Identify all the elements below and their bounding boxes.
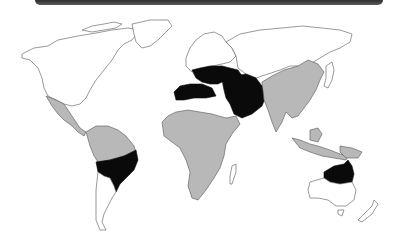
- region-greenland: [132, 20, 172, 48]
- region-sub-saharan-africa: [162, 110, 240, 200]
- region-tasmania: [338, 210, 344, 216]
- region-borneo: [310, 128, 322, 142]
- region-north-america: [22, 28, 140, 106]
- region-madagascar: [230, 164, 236, 184]
- region-new-zealand: [358, 200, 378, 222]
- region-indonesia: [292, 138, 348, 160]
- region-north-africa: [174, 84, 216, 100]
- region-australia-north: [324, 160, 354, 184]
- world-map: [0, 0, 408, 248]
- region-middle-east: [222, 74, 266, 118]
- region-japan: [324, 62, 334, 88]
